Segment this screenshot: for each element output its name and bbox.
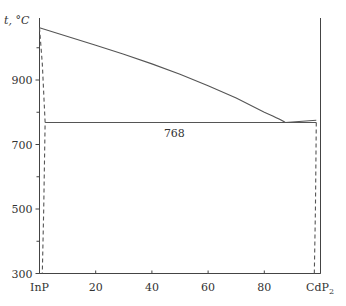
y-tick-label: 300 xyxy=(12,268,33,281)
y-axis-label: t, °C xyxy=(4,14,30,27)
x-right-label: CdP2 xyxy=(306,281,334,296)
curves xyxy=(40,28,317,274)
y-tick-label: 500 xyxy=(12,203,33,216)
y-tick-label: 900 xyxy=(12,74,33,87)
ticks xyxy=(36,48,321,274)
x-tick-label: 20 xyxy=(89,281,103,294)
y-tick-label: 700 xyxy=(12,139,33,152)
phase-diagram: 30050070090020406080InP t, °C 768 CdP2 xyxy=(0,0,346,306)
eutectic-annotation: 768 xyxy=(164,127,185,140)
x-left-label: InP xyxy=(30,281,49,294)
x-tick-label: 40 xyxy=(145,281,159,294)
axes xyxy=(40,18,321,274)
inp-solvus-curve xyxy=(40,28,46,274)
cdp2-solvus-curve xyxy=(314,123,316,274)
tick-labels: 30050070090020406080InP xyxy=(12,74,272,294)
x-tick-label: 60 xyxy=(201,281,215,294)
x-tick-label: 80 xyxy=(257,281,271,294)
liquidus-curve xyxy=(40,28,286,123)
